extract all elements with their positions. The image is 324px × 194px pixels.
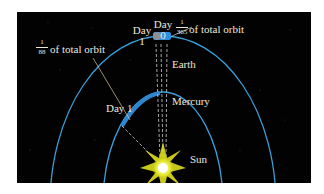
mercury-day1-label: Day 1: [106, 103, 133, 114]
mercury-label: Mercury: [172, 96, 210, 107]
sun-label: Sun: [190, 154, 207, 165]
mercury-fraction: 1 88: [36, 39, 48, 56]
space-background: Day 1 Day 0 1 365 of total orbit 1 88 of…: [17, 12, 311, 183]
earth-day1-label: Day 1: [132, 25, 152, 47]
mercury-fraction-text: of total orbit: [50, 44, 105, 55]
sun-icon: [140, 142, 186, 183]
earth-day0-label: Day 0: [153, 19, 173, 41]
earth-fraction-text: of total orbit: [189, 24, 244, 35]
earth-fraction: 1 365: [176, 19, 188, 36]
earth-label: Earth: [172, 59, 196, 70]
